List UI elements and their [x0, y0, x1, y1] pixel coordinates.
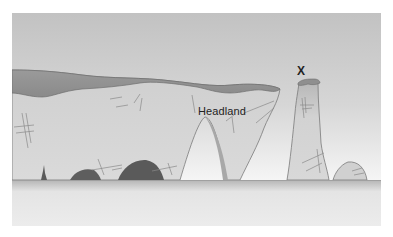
sea	[12, 180, 381, 226]
coastal-diagram: Headland X	[12, 13, 381, 226]
stack-marker-label: X	[297, 64, 305, 78]
coastal-illustration	[12, 13, 381, 226]
headland-label: Headland	[198, 105, 246, 117]
